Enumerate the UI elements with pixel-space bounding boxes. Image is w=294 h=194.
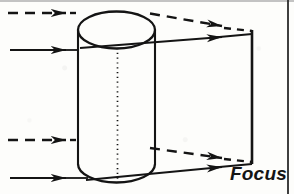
ray-upper-dashed-outgoing-tail — [224, 28, 252, 31]
cylinder-body-fill — [78, 30, 155, 183]
cylindrical-lens — [78, 12, 155, 183]
figure-canvas: Focus — [0, 0, 294, 194]
ray-lower-dashed-outgoing-tail — [224, 159, 252, 162]
focus-label: Focus — [230, 164, 287, 183]
ray-upper-dashed-outgoing — [150, 14, 222, 27]
ray-lower-dashed-outgoing — [150, 148, 222, 158]
incoming-rays — [8, 13, 88, 178]
ray-upper-solid-outgoing-tail — [214, 34, 252, 38]
